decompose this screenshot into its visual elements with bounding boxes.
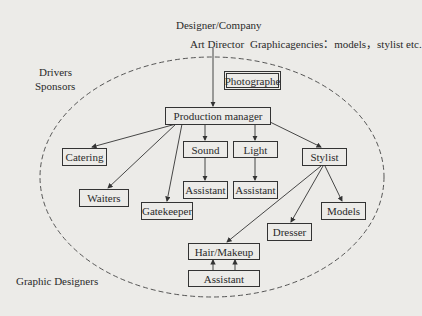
node-hair-assistant: Assistant — [188, 270, 260, 287]
designer-company-label: Designer/Company — [176, 19, 262, 31]
node-gatekeeper: Gatekeeper — [141, 202, 193, 220]
node-sound: Sound — [183, 141, 228, 158]
node-light: Light — [233, 141, 278, 158]
graphic-designers-label: Graphic Designers — [16, 275, 98, 287]
node-dresser: Dresser — [267, 223, 312, 241]
sponsors-label: Sponsors — [35, 80, 75, 92]
art-director-label: Art Director — [190, 38, 244, 50]
scope-ellipse — [40, 57, 384, 297]
node-waiters: Waiters — [79, 189, 129, 207]
node-hair-makeup: Hair/Makeup — [188, 243, 260, 260]
graphic-agencies-label: Graphicagencies：models，stylist etc. — [250, 38, 422, 50]
node-stylist: Stylist — [302, 148, 347, 166]
node-models: Models — [321, 202, 366, 220]
drivers-label: Drivers — [39, 66, 72, 78]
node-photographe: Photographe — [226, 73, 279, 88]
node-catering: Catering — [62, 148, 107, 166]
node-sound-assistant: Assistant — [183, 181, 228, 199]
node-production-manager: Production manager — [165, 107, 271, 125]
node-light-assistant: Assistant — [233, 181, 278, 199]
